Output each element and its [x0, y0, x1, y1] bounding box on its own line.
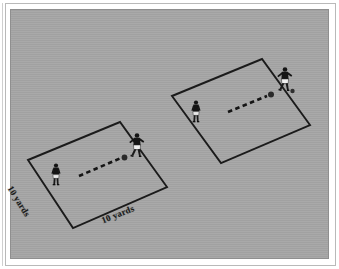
lower-grid-pass-line	[79, 158, 121, 176]
upper-grid-ball	[268, 92, 274, 98]
diagram-page: 10 yards 10 yards	[0, 0, 339, 269]
lower-left-grid	[28, 122, 167, 228]
lower-grid-receiver-player	[51, 163, 60, 185]
drill-illustration	[0, 0, 339, 269]
upper-grid-server-player	[277, 67, 292, 91]
upper-grid-ball-secondary	[290, 89, 294, 93]
lower-grid-ball	[122, 155, 128, 161]
upper-grid-pass-line	[228, 96, 267, 112]
upper-grid-receiver-player	[191, 100, 200, 122]
